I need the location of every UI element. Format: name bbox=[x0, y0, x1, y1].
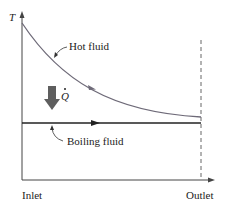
outlet-label: Outlet bbox=[186, 190, 214, 201]
hot-fluid-flow-arrow bbox=[88, 85, 96, 90]
x-axis bbox=[22, 178, 215, 183]
hot-fluid-label: Hot fluid bbox=[69, 41, 109, 52]
boiling-fluid-flow-arrow bbox=[91, 120, 100, 126]
boiling-fluid-label: Boiling fluid bbox=[67, 136, 124, 147]
heat-exchanger-temperature-diagram: T Hot fluid Boiling fluid Q Inlet Outlet bbox=[0, 0, 225, 208]
inlet-label: Inlet bbox=[22, 190, 42, 201]
y-axis bbox=[20, 11, 25, 180]
y-axis-label: T bbox=[9, 12, 15, 23]
heat-transfer-label: Q bbox=[61, 91, 69, 102]
heat-transfer-arrow-icon bbox=[44, 86, 60, 110]
